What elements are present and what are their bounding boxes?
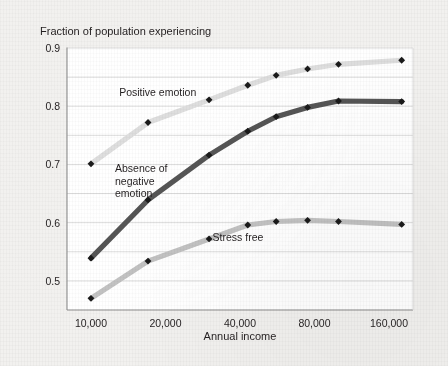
y-tick-label: 0.5 [45,275,60,287]
x-axis-tick-labels: 10,00020,00040,00080,000160,000 [75,317,408,329]
x-tick-label: 40,000 [224,317,256,329]
chart-title: Fraction of population experiencing [40,25,211,37]
y-tick-label: 0.6 [45,217,60,229]
y-tick-label: 0.8 [45,100,60,112]
x-tick-label: 20,000 [149,317,181,329]
series-label-2: Stress free [213,231,264,243]
chart-figure: 10,00020,00040,00080,000160,000 0.50.60.… [0,0,448,366]
y-tick-label: 0.9 [45,42,60,54]
x-axis-label: Annual income [204,330,277,342]
line-chart: 10,00020,00040,00080,000160,000 0.50.60.… [0,0,448,366]
x-tick-label: 10,000 [75,317,107,329]
y-tick-label: 0.7 [45,158,60,170]
x-tick-label: 80,000 [298,317,330,329]
x-tick-label: 160,000 [370,317,408,329]
series-label-0: Positive emotion [119,86,196,98]
y-axis-tick-labels: 0.50.60.70.80.9 [45,42,60,287]
